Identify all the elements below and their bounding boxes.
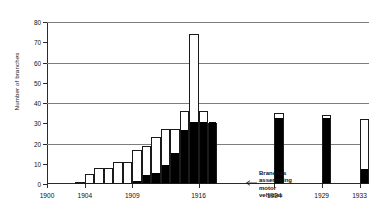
x-tick-1904: [85, 184, 86, 188]
bar-assembling-1929: [323, 118, 330, 183]
bar-1915: [189, 34, 198, 184]
y-tick-20: [43, 144, 47, 145]
x-tick-label-1916: 1916: [191, 192, 206, 199]
bar-assembling-1912: [162, 165, 169, 183]
bar-1908: [123, 162, 132, 184]
y-tick-label-0: 0: [37, 181, 41, 188]
annotation-leader-arrow: [245, 180, 258, 186]
gridline-40: [47, 103, 369, 104]
annotation-line-1: Branches: [259, 170, 319, 177]
y-tick-80: [43, 22, 47, 23]
bar-1910: [142, 146, 151, 184]
y-tick-label-50: 50: [34, 79, 41, 86]
bar-1904: [85, 174, 94, 184]
annotation-line-3: motor: [259, 185, 319, 192]
bar-assembling-1909: [133, 181, 140, 183]
x-tick-label-1900: 1900: [40, 192, 55, 199]
bar-assembling-1916: [200, 122, 207, 183]
annotation-line-4: vehicles: [259, 192, 319, 199]
x-tick-label-1909: 1909: [125, 192, 140, 199]
y-tick-70: [43, 42, 47, 43]
bar-assembling-1911: [152, 173, 159, 183]
x-tick-1900: [47, 184, 48, 188]
bar-1916: [199, 111, 208, 184]
y-tick-label-30: 30: [34, 120, 41, 127]
annotation-branches-assembling: Branches assembling motor vehicles: [259, 170, 319, 200]
bar-1929: [322, 115, 331, 184]
x-tick-1929: [322, 184, 323, 188]
bar-assembling-1913: [171, 153, 178, 183]
annotation-line-2: assembling: [259, 177, 319, 184]
gridline-60: [47, 63, 369, 64]
bar-1933: [360, 119, 369, 184]
bar-1905: [94, 168, 103, 184]
bar-assembling-1917: [209, 122, 216, 183]
x-tick-1916: [199, 184, 200, 188]
bar-1911: [151, 137, 160, 184]
x-tick-1933: [360, 184, 361, 188]
y-axis-title: Number of branches: [13, 27, 20, 137]
x-tick-label-1904: 1904: [78, 192, 93, 199]
y-tick-40: [43, 103, 47, 104]
y-tick-30: [43, 123, 47, 124]
gridline-80: [47, 22, 369, 23]
y-tick-label-80: 80: [34, 19, 41, 26]
plot-area: 01020304050607080 1900190419091916192419…: [47, 22, 369, 184]
y-tick-10: [43, 164, 47, 165]
y-tick-label-20: 20: [34, 140, 41, 147]
y-tick-label-60: 60: [34, 59, 41, 66]
bar-assembling-1933: [361, 169, 368, 183]
bar-1914: [180, 111, 189, 184]
y-tick-50: [43, 83, 47, 84]
y-tick-label-10: 10: [34, 160, 41, 167]
x-tick-1909: [132, 184, 133, 188]
bar-1912: [161, 129, 170, 184]
bar-1903: [75, 182, 84, 184]
bar-1906: [104, 168, 113, 184]
y-tick-60: [43, 63, 47, 64]
bar-1917: [208, 123, 217, 184]
y-tick-label-70: 70: [34, 39, 41, 46]
bar-assembling-1915: [190, 122, 197, 183]
bar-assembling-1914: [181, 130, 188, 183]
bar-assembling-1910: [143, 175, 150, 183]
y-tick-label-40: 40: [34, 100, 41, 107]
x-tick-label-1933: 1933: [352, 192, 367, 199]
chart-figure: Number of branches 01020304050607080 190…: [0, 0, 375, 218]
bar-1913: [170, 129, 179, 184]
bar-1909: [132, 150, 141, 184]
bar-1907: [113, 162, 122, 184]
